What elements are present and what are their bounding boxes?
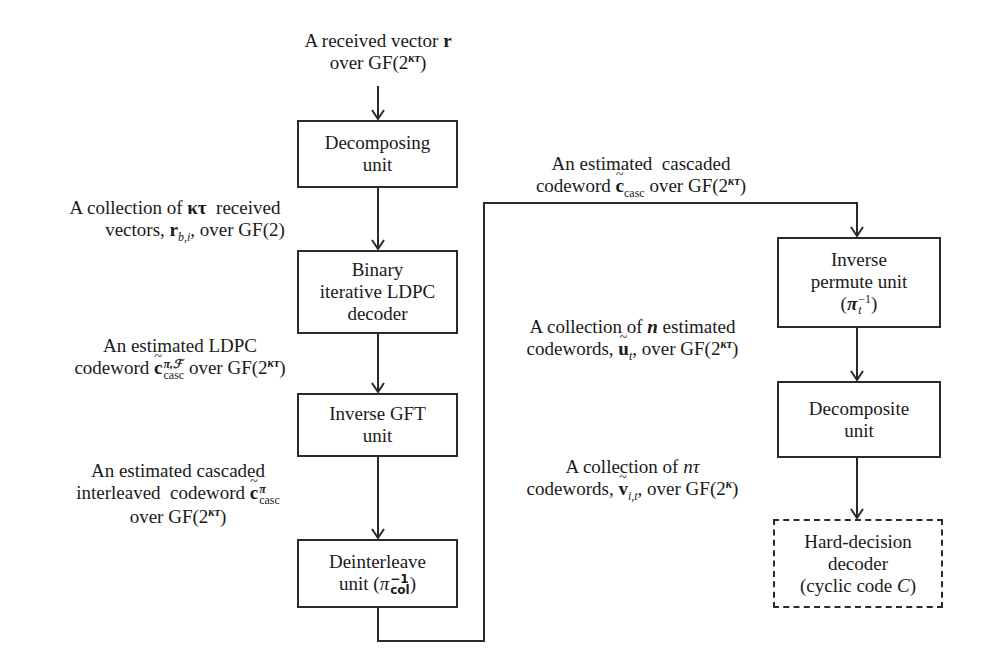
- deinterleave-unit-box: Deinterleave unit (π−1col): [297, 539, 458, 608]
- box-line: unit: [844, 420, 874, 442]
- box-line: unit: [363, 425, 393, 447]
- input-label: A received vector r over GF(2κτ): [278, 30, 478, 74]
- after-ldpc-label: An estimated LDPC codeword cπ,ℱcasc over…: [45, 335, 315, 381]
- box-line: Deinterleave: [329, 551, 426, 573]
- box-line: decoder: [828, 553, 888, 575]
- hard-decision-decoder-box: Hard-decision decoder (cyclic code C): [773, 519, 943, 608]
- box-line: Hard-decision: [804, 531, 912, 553]
- binary-ldpc-decoder-box: Binary iterative LDPC decoder: [297, 250, 458, 334]
- box-line: decoder: [347, 303, 407, 325]
- pi-symbol: π: [847, 293, 857, 314]
- after-deinterleave-label: An estimated cascaded codeword ccasc ove…: [496, 153, 786, 197]
- box-line: Decomposite: [809, 398, 909, 420]
- inverse-permute-unit-box: Inverse permute unit (π−1t): [777, 237, 941, 328]
- inverse-gft-unit-box: Inverse GFT unit: [297, 393, 458, 457]
- box-line: Inverse: [831, 249, 887, 271]
- box-line: unit (π−1col): [339, 573, 416, 597]
- box-line: (π−1t): [841, 293, 878, 317]
- decoder-flowchart: Decomposing unit Binary iterative LDPC d…: [0, 0, 992, 665]
- after-gft-label: An estimated cascaded interleaved codewo…: [48, 460, 308, 528]
- box-line: Decomposing: [325, 132, 431, 154]
- box-line: unit: [363, 154, 393, 176]
- box-line: permute unit: [811, 271, 908, 293]
- box-line: Binary: [352, 259, 404, 281]
- after-decomposing-label: A collection of κτ received vectors, rb,…: [40, 197, 310, 241]
- box-line: (cyclic code C): [800, 575, 916, 597]
- after-decomposite-label: A collection of nτ codewords, vi,t, over…: [495, 456, 770, 500]
- decomposite-unit-box: Decomposite unit: [777, 381, 941, 458]
- after-permute-label: A collection of n estimated codewords, u…: [495, 316, 770, 360]
- box-line: Inverse GFT: [329, 403, 426, 425]
- decomposing-unit-box: Decomposing unit: [297, 120, 458, 188]
- box-line: iterative LDPC: [320, 281, 436, 303]
- pi-symbol: π: [380, 573, 390, 594]
